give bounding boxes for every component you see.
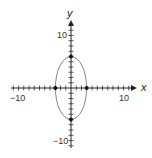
x-tick-label-10: 10 xyxy=(119,93,129,103)
x-tick-label-neg10: −10 xyxy=(10,93,25,103)
y-tick-label-neg10: −10 xyxy=(53,136,68,146)
x-axis-arrow-icon xyxy=(131,85,137,91)
y-tick-label-10: 10 xyxy=(57,30,67,40)
ellipse-graph: x y −10 10 10 −10 xyxy=(0,0,152,158)
x-axis-label: x xyxy=(140,81,147,93)
y-axis-arrow-icon xyxy=(68,20,74,26)
y-axis-label: y xyxy=(66,7,74,19)
covertex-point-left xyxy=(53,86,57,90)
vertex-point-bottom xyxy=(69,118,73,122)
vertex-point-top xyxy=(69,55,73,59)
covertex-point-right xyxy=(85,86,89,90)
